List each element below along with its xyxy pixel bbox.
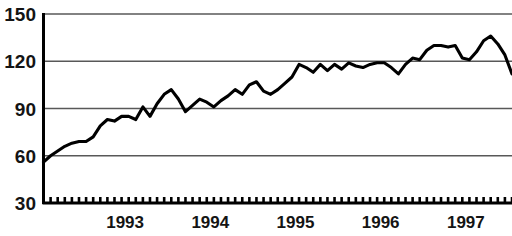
x-axis-tick-label: 1994 bbox=[191, 213, 229, 232]
line-chart: 306090120150 19931994199519961997 bbox=[0, 0, 512, 236]
y-axis-tick-label: 150 bbox=[4, 4, 36, 25]
x-axis-tick-label: 1997 bbox=[447, 213, 485, 232]
y-axis-tick-label: 60 bbox=[15, 146, 36, 167]
x-axis-tick-label: 1993 bbox=[106, 213, 144, 232]
chart-container: 306090120150 19931994199519961997 bbox=[0, 0, 512, 236]
x-axis-tick-label: 1995 bbox=[277, 213, 315, 232]
x-axis-tick-label: 1996 bbox=[362, 213, 400, 232]
y-axis-tick-label: 90 bbox=[15, 99, 36, 120]
y-axis-tick-label: 30 bbox=[15, 193, 36, 214]
y-axis-tick-label: 120 bbox=[4, 51, 36, 72]
x-axis-tickmarks bbox=[44, 197, 512, 203]
